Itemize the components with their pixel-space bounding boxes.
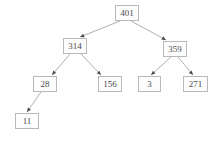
tree-node-11: 11 xyxy=(15,113,39,129)
tree-node-3: 3 xyxy=(138,76,161,92)
tree-edge xyxy=(151,57,171,75)
tree-node-label: 401 xyxy=(120,8,134,17)
tree-node-401: 401 xyxy=(115,5,139,21)
tree-edge-line xyxy=(131,21,166,40)
tree-node-314: 314 xyxy=(63,38,87,54)
tree-edge xyxy=(52,54,70,75)
tree-node-359: 359 xyxy=(163,41,187,57)
tree-node-28: 28 xyxy=(33,76,57,92)
tree-edge xyxy=(27,92,41,112)
tree-node-label: 3 xyxy=(147,79,152,88)
tree-node-label: 314 xyxy=(68,41,82,50)
tree-edge xyxy=(81,54,101,75)
tree-edge-line xyxy=(81,54,101,75)
tree-edge xyxy=(131,21,166,40)
tree-edge xyxy=(80,21,120,37)
tree-node-label: 28 xyxy=(41,79,50,88)
binary-tree-diagram: 40131435928156327111 xyxy=(0,0,219,142)
tree-edge-line xyxy=(80,21,120,37)
tree-edge-arrowhead-icon xyxy=(27,107,31,112)
tree-node-label: 156 xyxy=(103,79,117,88)
tree-node-156: 156 xyxy=(98,76,122,92)
tree-edge xyxy=(178,57,193,75)
tree-node-label: 11 xyxy=(23,116,32,125)
tree-node-271: 271 xyxy=(183,76,208,92)
tree-node-label: 359 xyxy=(168,44,182,53)
tree-node-label: 271 xyxy=(189,79,203,88)
